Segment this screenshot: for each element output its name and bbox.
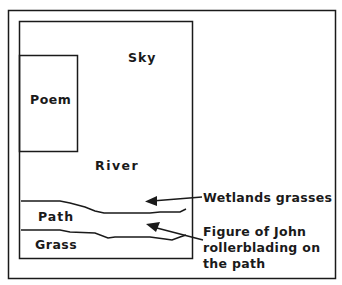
figure-annotation-line2: rollerblading on [203, 240, 320, 255]
river-label: River [95, 158, 139, 173]
sky-label: Sky [128, 50, 156, 65]
wetlands-arrow [145, 196, 202, 206]
poem-label: Poem [30, 92, 71, 107]
figure-annotation-line3: the path [203, 256, 265, 271]
path-label: Path [38, 209, 74, 224]
grass-label: Grass [35, 237, 77, 252]
wetlands-annotation: Wetlands grasses [203, 190, 332, 205]
figure-annotation-line1: Figure of John [203, 224, 306, 239]
